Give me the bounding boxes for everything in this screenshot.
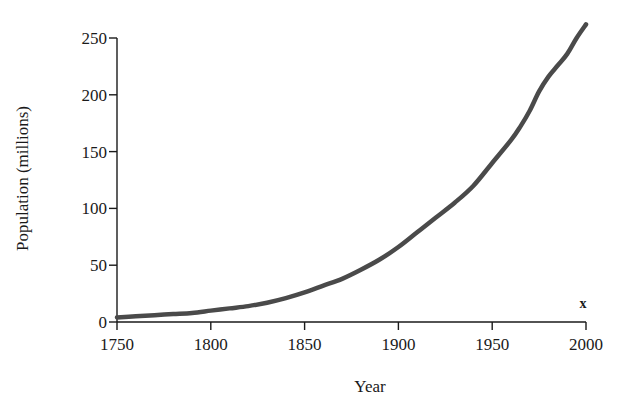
x-tick-label-1750: 1750 [100, 336, 134, 353]
x-tick-label-1800: 1800 [194, 336, 228, 353]
y-axis-title: Population (millions) [14, 106, 31, 251]
population-line-series [117, 24, 586, 317]
y-tick-label-50: 50 [55, 257, 107, 274]
y-tick-label-250: 250 [55, 30, 107, 47]
y-tick-label-0: 0 [55, 314, 107, 331]
chart-axes [117, 38, 586, 322]
y-tick-label-200: 200 [55, 86, 107, 103]
y-tick-label-100: 100 [55, 200, 107, 217]
y-tick-label-150: 150 [55, 143, 107, 160]
x-axis-title: Year [354, 378, 385, 395]
population-growth-chart: 050100150200250 175018001850190019502000… [0, 0, 632, 420]
x-tick-label-1900: 1900 [381, 336, 415, 353]
x-tick-label-2000: 2000 [569, 336, 603, 353]
x-tick-label-1850: 1850 [288, 336, 322, 353]
x-marker-annotation: x [580, 297, 587, 311]
x-tick-label-1950: 1950 [475, 336, 509, 353]
chart-tick-marks [109, 38, 586, 330]
